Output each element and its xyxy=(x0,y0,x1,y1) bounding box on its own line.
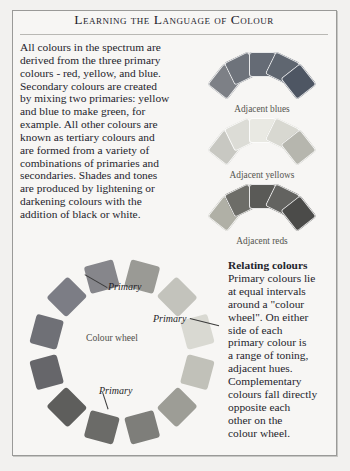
page-title: Learning the Language of Colour xyxy=(13,12,335,28)
colour-wheel-center-label: Colour wheel xyxy=(86,332,138,343)
relating-colours-line: wheel". On either xyxy=(228,311,332,324)
intro-paragraph-line: secondaries. Shades and tones xyxy=(20,169,182,182)
intro-paragraph-line: derived from the three primary xyxy=(20,54,182,67)
intro-paragraph-line: and blue to make green, for xyxy=(20,105,182,118)
relating-colours-line: around a "colour xyxy=(228,298,332,311)
arc-caption: Adjacent blues xyxy=(197,104,327,114)
wheel-swatch xyxy=(124,410,160,445)
primary-label-top: Primary xyxy=(108,281,141,292)
arc-caption: Adjacent reds xyxy=(197,236,327,246)
relating-colours-line: colour wheel. xyxy=(228,427,332,440)
primary-label-right: Primary xyxy=(153,313,186,324)
arc-caption: Adjacent yellows xyxy=(197,170,327,180)
relating-colours-block: Relating colours Primary colours lieat e… xyxy=(228,259,332,440)
intro-paragraph-line: All colours in the spectrum are xyxy=(20,41,182,54)
swatch-arc-adjacent-reds: Adjacent reds xyxy=(192,180,332,246)
intro-paragraph-line: by mixing two primaries: yellow xyxy=(20,92,182,105)
relating-colours-line: primary colour is xyxy=(228,336,332,349)
wheel-swatch xyxy=(46,387,87,428)
relating-colours-line: Primary colours lie xyxy=(228,272,332,285)
intro-paragraph-line: combinations of primaries and xyxy=(20,157,182,170)
intro-paragraph-line: colours - red, yellow, and blue. xyxy=(20,67,182,80)
relating-colours-line: a range of toning, xyxy=(228,349,332,362)
intro-paragraph: All colours in the spectrum arederived f… xyxy=(20,41,182,221)
wheel-swatch xyxy=(29,314,64,350)
relating-colours-line: adjacent hues. xyxy=(228,362,332,375)
intro-paragraph-line: darkening colours with the xyxy=(20,195,182,208)
relating-colours-heading: Relating colours xyxy=(228,259,332,272)
relating-colours-line: opposite each xyxy=(228,401,332,414)
relating-colours-line: side of each xyxy=(228,324,332,337)
intro-paragraph-line: are produced by lightening or xyxy=(20,182,182,195)
wheel-swatch xyxy=(157,276,198,317)
intro-paragraph-line: example. All other colours are xyxy=(20,118,182,131)
swatch-arc-adjacent-yellows: Adjacent yellows xyxy=(192,114,332,180)
relating-colours-text: Primary colours lieat equal intervalsaro… xyxy=(228,272,332,440)
intro-paragraph-line: are formed from a variety of xyxy=(20,144,182,157)
relating-colours-line: at equal intervals xyxy=(228,285,332,298)
magazine-page: Learning the Language of Colour All colo… xyxy=(0,0,350,471)
relating-colours-line: other on the xyxy=(228,414,332,427)
wheel-swatch xyxy=(157,387,198,428)
relating-colours-line: colours fall directly xyxy=(228,388,332,401)
intro-paragraph-line: known as tertiary colours and xyxy=(20,131,182,144)
wheel-swatch xyxy=(84,410,120,445)
swatch-arc-adjacent-blues: Adjacent blues xyxy=(192,48,332,114)
wheel-swatch xyxy=(29,354,64,390)
colour-wheel xyxy=(18,248,226,456)
intro-paragraph-line: addition of black or white. xyxy=(20,208,182,221)
wheel-swatch xyxy=(46,276,87,317)
title-divider xyxy=(20,34,328,35)
intro-paragraph-line: Secondary colours are created xyxy=(20,80,182,93)
relating-colours-line: Complementary xyxy=(228,375,332,388)
wheel-swatch xyxy=(180,354,215,390)
